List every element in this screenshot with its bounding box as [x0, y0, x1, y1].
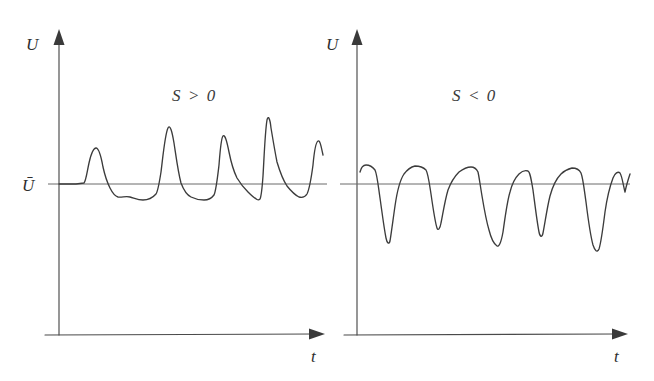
right-t-axis-label: t	[614, 347, 620, 366]
left-y-axis-arrow-icon	[54, 29, 65, 45]
right-y-axis-label: U	[326, 35, 340, 54]
right-t-axis-arrow-icon	[612, 329, 628, 340]
right-y-axis-arrow-icon	[352, 29, 363, 45]
left-y-axis-label: U	[26, 35, 40, 54]
left-t-axis-label: t	[311, 347, 317, 366]
left-waveform-trace	[59, 118, 323, 200]
left-panel-skewness-label: S > 0	[172, 86, 217, 105]
waveform-figure: U Ū t S > 0 U t S < 0	[0, 0, 654, 381]
figure-canvas: U Ū t S > 0 U t S < 0	[0, 0, 654, 381]
left-t-axis	[45, 334, 313, 335]
right-waveform-trace	[360, 165, 630, 251]
left-mean-label: Ū	[22, 176, 36, 195]
right-t-axis	[344, 334, 616, 335]
right-panel-skewness-label: S < 0	[452, 86, 497, 105]
panel-left: U Ū t S > 0	[22, 29, 327, 366]
left-t-axis-arrow-icon	[309, 329, 325, 340]
panel-right: U t S < 0	[326, 29, 630, 366]
